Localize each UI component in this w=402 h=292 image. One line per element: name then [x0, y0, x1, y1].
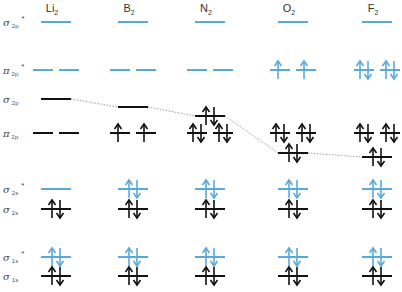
orbital-li2-sigma2s [41, 200, 71, 218]
orbital-f2-sigma1s-star [362, 248, 392, 266]
mo-diagram: Li2B2N2O2F2 σ2p*π2p*σ2pπ2pσ2s*σ2sσ1s*σ1s [0, 0, 402, 292]
molecule-label-li2: Li2 [46, 2, 59, 16]
column-b2 [110, 22, 156, 285]
row-label-sigma2p: σ2p [3, 94, 19, 106]
orbital-f2-pi2p-1 [354, 124, 374, 142]
molecule-labels: Li2B2N2O2F2 [46, 2, 379, 16]
orbital-li2-sigma1s [41, 267, 71, 285]
row-label-sigma2p-star: σ2p* [3, 14, 25, 29]
orbital-n2-sigma2s-star [195, 180, 225, 198]
orbital-b2-sigma2s [118, 200, 148, 218]
molecule-label-f2: F2 [368, 2, 379, 16]
orbital-n2-sigma1s-star [195, 248, 225, 266]
orbital-n2-pi2p-1 [187, 124, 207, 142]
orbital-f2-pi2p-star-2 [380, 61, 400, 79]
molecule-label-b2: B2 [123, 2, 134, 16]
orbital-n2-sigma2s [195, 200, 225, 218]
svg-text:σ1s: σ1s [3, 271, 18, 283]
column-li2 [33, 22, 79, 285]
molecule-label-o2: O2 [283, 2, 296, 16]
orbital-o2-sigma1s-star [278, 248, 308, 266]
column-n2 [187, 22, 233, 285]
svg-text:π2p: π2p [2, 128, 19, 140]
orbital-row-labels: σ2p*π2p*σ2pπ2pσ2s*σ2sσ1s*σ1s [2, 14, 25, 283]
orbital-f2-sigma1s [362, 267, 392, 285]
orbital-b2-sigma2s-star [118, 180, 148, 198]
orbital-li2-sigma1s-star [41, 248, 71, 266]
orbital-f2-sigma2s [362, 200, 392, 218]
orbital-f2-sigma2p [362, 148, 392, 166]
row-label-sigma1s-star: σ1s* [3, 249, 24, 264]
orbital-b2-sigma1s [118, 267, 148, 285]
row-label-sigma1s: σ1s [3, 271, 18, 283]
orbital-o2-sigma1s [278, 267, 308, 285]
column-f2 [354, 22, 400, 285]
svg-text:π2p*: π2p* [2, 62, 24, 77]
orbital-o2-pi2p-star-1 [270, 61, 290, 79]
svg-text:σ1s*: σ1s* [3, 249, 24, 264]
orbital-n2-sigma1s [195, 267, 225, 285]
orbital-n2-sigma2p [195, 107, 225, 125]
orbital-o2-sigma2s-star [278, 180, 308, 198]
orbital-o2-pi2p-2 [296, 124, 316, 142]
row-label-pi2p-star: π2p* [2, 62, 24, 77]
orbital-b2-pi2p-1 [110, 124, 130, 142]
orbital-o2-pi2p-1 [270, 124, 290, 142]
svg-text:σ2s*: σ2s* [3, 181, 24, 196]
orbital-n2-pi2p-2 [213, 124, 233, 142]
row-label-sigma2s-star: σ2s* [3, 181, 24, 196]
orbital-levels [33, 22, 400, 285]
orbital-b2-pi2p-2 [136, 124, 156, 142]
orbital-o2-sigma2p [278, 144, 308, 162]
svg-text:σ2p*: σ2p* [3, 14, 25, 29]
svg-text:σ2p: σ2p [3, 94, 19, 106]
row-label-sigma2s: σ2s [3, 204, 18, 216]
orbital-b2-sigma1s-star [118, 248, 148, 266]
row-label-pi2p: π2p [2, 128, 19, 140]
orbital-f2-pi2p-star-1 [354, 61, 374, 79]
svg-text:σ2s: σ2s [3, 204, 18, 216]
orbital-f2-sigma2s-star [362, 180, 392, 198]
orbital-f2-pi2p-2 [380, 124, 400, 142]
column-o2 [270, 22, 316, 285]
orbital-o2-pi2p-star-2 [296, 61, 316, 79]
molecule-label-n2: N2 [200, 2, 212, 16]
orbital-o2-sigma2s [278, 200, 308, 218]
